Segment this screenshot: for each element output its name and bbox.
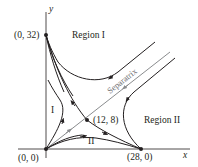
trajectory-region-i-small: [46, 80, 63, 149]
region-ii-trajectories: [46, 58, 175, 149]
separatrix-arrow-lower: [66, 130, 70, 133]
trajectory-inner-1: [46, 35, 73, 96]
separatrix-arrow-upper: [124, 85, 128, 88]
trajectory-arrow-i-small: [62, 120, 63, 124]
separatrix-label: Separatrix: [105, 66, 139, 96]
trajectory-top: [46, 35, 155, 80]
region-i-label: Region I: [72, 30, 105, 40]
y-axis-label: y: [48, 4, 54, 14]
trajectory-origin-ray: [46, 135, 82, 149]
labels: y x (0, 32) (0, 0) (28, 0) (12, 8) Regio…: [14, 4, 188, 164]
phase-plane-diagram: y x (0, 32) (0, 0) (28, 0) (12, 8) Regio…: [0, 0, 198, 167]
region-i-trajectories: [46, 35, 155, 149]
region-ii-label: Region II: [144, 115, 180, 125]
region-i-small-label: I: [51, 105, 54, 115]
separatrix-line: [46, 52, 170, 149]
equilibrium-label-28-0: (28, 0): [127, 152, 152, 163]
equilibrium-label-0-0: (0, 0): [18, 153, 39, 164]
equilibrium-12-8: [85, 118, 89, 122]
equilibrium-label-12-8: (12, 8): [93, 115, 118, 126]
separatrix: [46, 52, 170, 149]
equilibrium-label-0-32: (0, 32): [14, 30, 39, 41]
region-ii-small-label: II: [88, 136, 94, 146]
trajectory-arrow-ii-small: [80, 136, 85, 137]
x-axis-label: x: [182, 150, 188, 160]
equilibrium-28-0: [139, 147, 143, 151]
equilibrium-0-32: [44, 33, 48, 37]
equilibrium-0-0: [44, 147, 48, 151]
